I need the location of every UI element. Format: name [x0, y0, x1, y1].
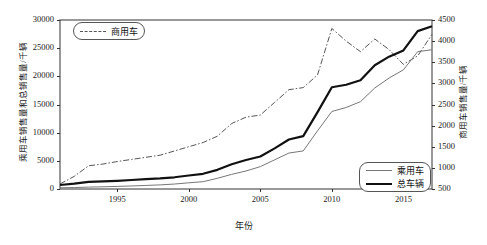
legend-item-label: 商用车: [111, 25, 138, 38]
legend-item-label: 乘用车: [397, 164, 424, 177]
legend-item[interactable]: 乘用车: [366, 164, 424, 177]
legend-item[interactable]: 商用车: [80, 25, 138, 38]
legend-passenger-total[interactable]: 乘用车总车辆: [359, 162, 431, 192]
plot-canvas: [0, 0, 487, 245]
legend-line-icon: [366, 170, 392, 171]
chart-figure: 乘用车销售量和总销售量/千辆 商用车销售量/千辆 年份 050001000015…: [0, 0, 487, 245]
legend-commercial[interactable]: 商用车: [73, 22, 145, 40]
legend-line-icon: [80, 31, 106, 32]
legend-item-label: 总车辆: [397, 177, 424, 190]
legend-item[interactable]: 总车辆: [366, 177, 424, 190]
legend-line-icon: [366, 183, 392, 185]
